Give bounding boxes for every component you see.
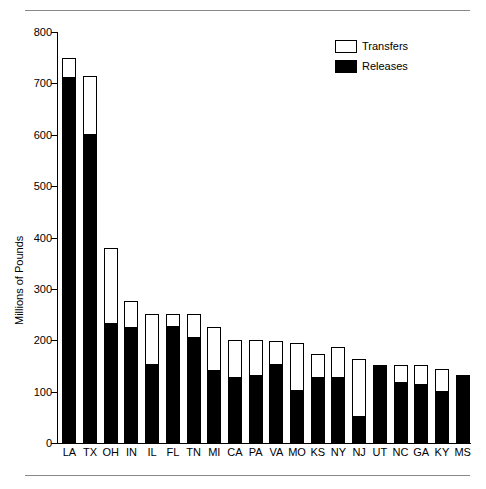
y-axis-tick	[51, 238, 57, 239]
bar-ks	[311, 354, 325, 443]
bar-segment-transfers	[290, 343, 304, 391]
y-axis-tick-label: 600	[8, 130, 52, 141]
bar-segment-transfers	[228, 340, 242, 378]
legend-swatch-transfers	[335, 40, 357, 53]
chart-figure: Millions of Pounds 010020030040050060070…	[0, 0, 486, 489]
top-divider-rule	[25, 10, 470, 11]
plot-area: LATXOHINILFLTNMICAPAVAMOKSNYNJUTNCGAKYMS	[57, 32, 471, 443]
x-axis-label-ms: MS	[449, 447, 477, 458]
y-axis-tick-label: 700	[8, 78, 52, 89]
bar-segment-transfers	[166, 314, 180, 327]
y-axis-tick	[51, 186, 57, 187]
bottom-divider-rule	[25, 475, 470, 476]
bar-mo	[290, 343, 304, 443]
bar-segment-releases	[435, 392, 449, 443]
bar-segment-releases	[166, 327, 180, 443]
bar-segment-transfers	[269, 341, 283, 366]
legend-swatch-releases	[335, 60, 357, 73]
bar-segment-transfers	[124, 301, 138, 328]
y-axis-tick-label: 100	[8, 387, 52, 398]
y-axis-tick	[51, 83, 57, 84]
y-axis-tick-label: 200	[8, 335, 52, 346]
bar-segment-releases	[187, 338, 201, 443]
bar-segment-transfers	[187, 314, 201, 338]
bar-ny	[331, 347, 345, 443]
bar-segment-transfers	[331, 347, 345, 378]
legend-entry-releases: Releases	[335, 58, 408, 74]
bar-segment-transfers	[207, 327, 221, 370]
bar-il	[145, 314, 159, 443]
bar-segment-releases	[249, 376, 263, 443]
bar-segment-releases	[352, 417, 366, 443]
bar-oh	[104, 248, 118, 443]
bar-segment-transfers	[62, 58, 76, 79]
bar-segment-releases	[394, 383, 408, 443]
y-axis-tick-label: 400	[8, 233, 52, 244]
bar-segment-releases	[228, 378, 242, 443]
bar-ms	[456, 375, 470, 443]
bar-ca	[228, 340, 242, 443]
bar-segment-transfers	[83, 76, 97, 135]
bar-segment-transfers	[394, 365, 408, 383]
bar-segment-transfers	[435, 369, 449, 393]
bar-nc	[394, 365, 408, 443]
chart-legend: TransfersReleases	[335, 38, 408, 78]
bar-ut	[373, 365, 387, 443]
y-axis-tick	[51, 392, 57, 393]
y-axis-tick	[51, 289, 57, 290]
bar-segment-releases	[290, 391, 304, 443]
bar-la	[62, 58, 76, 443]
bar-segment-releases	[311, 378, 325, 443]
bar-segment-releases	[104, 324, 118, 443]
bar-segment-releases	[331, 378, 345, 443]
bar-segment-releases	[62, 78, 76, 443]
y-axis-tick-label: 500	[8, 181, 52, 192]
y-axis-tick-label: 300	[8, 284, 52, 295]
y-axis-tick	[51, 340, 57, 341]
bar-tx	[83, 76, 97, 443]
bar-segment-transfers	[414, 365, 428, 385]
bar-segment-transfers	[145, 314, 159, 366]
bar-segment-transfers	[352, 359, 366, 417]
y-axis-tick-labels: 0100200300400500600700800	[0, 0, 52, 489]
y-axis-tick-label: 0	[8, 438, 52, 449]
bar-va	[269, 341, 283, 443]
bar-segment-releases	[414, 385, 428, 443]
bar-pa	[249, 340, 263, 443]
bar-segment-transfers	[104, 248, 118, 325]
bar-segment-releases	[269, 365, 283, 443]
bar-segment-transfers	[249, 340, 263, 376]
bar-segment-releases	[207, 371, 221, 443]
bar-in	[124, 301, 138, 443]
y-axis-line	[57, 32, 58, 443]
bar-fl	[166, 314, 180, 443]
bar-ky	[435, 369, 449, 443]
legend-label-transfers: Transfers	[362, 41, 408, 52]
bar-segment-releases	[145, 365, 159, 443]
y-axis-tick	[51, 443, 57, 444]
y-axis-tick	[51, 135, 57, 136]
legend-label-releases: Releases	[362, 61, 408, 72]
y-axis-tick	[51, 32, 57, 33]
bar-segment-releases	[373, 365, 387, 443]
bar-ga	[414, 365, 428, 443]
bar-nj	[352, 359, 366, 443]
y-axis-tick-label: 800	[8, 27, 52, 38]
bar-segment-releases	[456, 376, 470, 443]
bar-segment-transfers	[311, 354, 325, 379]
bar-tn	[187, 314, 201, 443]
bar-segment-releases	[83, 135, 97, 443]
bar-segment-releases	[124, 328, 138, 443]
bar-mi	[207, 327, 221, 443]
x-axis-line	[57, 443, 471, 444]
legend-entry-transfers: Transfers	[335, 38, 408, 54]
